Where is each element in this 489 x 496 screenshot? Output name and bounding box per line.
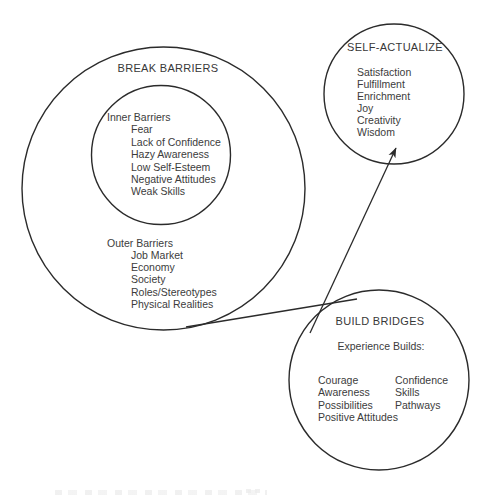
list-item: Pathways <box>395 399 448 411</box>
list-item: Lack of Confidence <box>131 136 221 148</box>
list-item: Positive Attitudes <box>318 411 398 423</box>
outer-barriers-list: Outer Barriers Job Market Economy Societ… <box>107 237 217 310</box>
build-bridges-left-column: Courage Awareness Possibilities Positive… <box>318 374 398 423</box>
list-item: Negative Attitudes <box>131 173 221 185</box>
diagram-canvas: BREAK BARRIERS Inner Barriers Fear Lack … <box>0 0 489 496</box>
break-barriers-title: BREAK BARRIERS <box>118 62 219 74</box>
list-item: Hazy Awareness <box>131 148 221 160</box>
list-item: Society <box>131 273 217 285</box>
list-item: Confidence <box>395 374 448 386</box>
list-item: Weak Skills <box>131 185 221 197</box>
list-item: Fear <box>131 123 221 135</box>
cutoff-caption-remnant <box>55 490 267 495</box>
list-item: Low Self-Esteem <box>131 161 221 173</box>
list-item: Possibilities <box>318 399 398 411</box>
list-item: Creativity <box>357 114 411 126</box>
list-item: Wisdom <box>357 126 411 138</box>
list-item: Courage <box>318 374 398 386</box>
list-item: Roles/Stereotypes <box>131 286 217 298</box>
self-actualize-arrow <box>310 148 396 333</box>
cutoff-caption-remnant <box>246 489 264 493</box>
build-bridges-right-column: Confidence Skills Pathways <box>395 374 448 411</box>
list-item: Awareness <box>318 386 398 398</box>
list-item: Job Market <box>131 249 217 261</box>
list-item: Economy <box>131 261 217 273</box>
build-bridges-subtitle: Experience Builds: <box>338 340 425 352</box>
build-bridges-title: BUILD BRIDGES <box>336 315 425 327</box>
outer-barriers-heading: Outer Barriers <box>107 237 217 249</box>
list-item: Physical Realities <box>131 298 217 310</box>
inner-barriers-list: Inner Barriers Fear Lack of Confidence H… <box>107 111 221 198</box>
diagram-shapes <box>0 0 489 496</box>
self-actualize-title: SELF-ACTUALIZE <box>347 41 443 53</box>
list-item: Joy <box>357 102 411 114</box>
self-actualize-list: Satisfaction Fulfillment Enrichment Joy … <box>357 66 411 138</box>
list-item: Fulfillment <box>357 78 411 90</box>
list-item: Satisfaction <box>357 66 411 78</box>
list-item: Enrichment <box>357 90 411 102</box>
inner-barriers-heading: Inner Barriers <box>107 111 221 123</box>
list-item: Skills <box>395 386 448 398</box>
